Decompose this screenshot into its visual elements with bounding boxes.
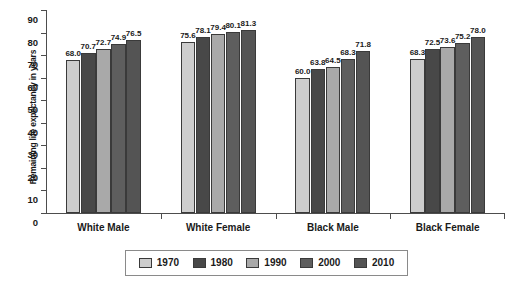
bar-white-male-2010 bbox=[126, 40, 141, 212]
y-tick-label: 0 bbox=[33, 218, 38, 228]
legend-label: 1970 bbox=[157, 258, 179, 268]
y-tick-mark bbox=[41, 190, 46, 191]
y-axis-line bbox=[46, 10, 47, 214]
x-group-tick bbox=[504, 213, 505, 219]
y-tick-mark bbox=[41, 33, 46, 34]
bar-white-male-2000 bbox=[111, 44, 126, 213]
y-tick-label: 20 bbox=[27, 173, 38, 183]
y-tick-mark bbox=[41, 78, 46, 79]
bar-black-male-2000 bbox=[341, 59, 356, 213]
legend-swatch-icon bbox=[193, 258, 206, 268]
y-tick-label: 50 bbox=[27, 105, 38, 115]
legend-item-2010[interactable]: 2010 bbox=[354, 258, 394, 268]
bar-white-male-1990 bbox=[96, 49, 111, 213]
legend-swatch-icon bbox=[300, 258, 313, 268]
x-axis-group-label: Black Female bbox=[416, 222, 480, 233]
legend-item-1970[interactable]: 1970 bbox=[139, 258, 179, 268]
x-axis-group-label: White Female bbox=[186, 222, 250, 233]
legend-swatch-icon bbox=[354, 258, 367, 268]
bar-white-female-2000 bbox=[226, 32, 241, 212]
y-tick-label: 90 bbox=[27, 15, 38, 25]
y-tick-mark bbox=[41, 213, 46, 214]
bar-white-female-1980 bbox=[196, 37, 211, 213]
legend-item-2000[interactable]: 2000 bbox=[300, 258, 340, 268]
bar-value-label: 78.0 bbox=[467, 27, 489, 35]
legend-label: 1990 bbox=[264, 258, 286, 268]
legend-item-1980[interactable]: 1980 bbox=[193, 258, 233, 268]
x-group-tick bbox=[390, 213, 391, 219]
bar-black-female-2010 bbox=[471, 37, 486, 213]
bar-black-male-1970 bbox=[295, 78, 310, 213]
legend-label: 2010 bbox=[372, 258, 394, 268]
legend-label: 1980 bbox=[211, 258, 233, 268]
source-note bbox=[4, 289, 524, 297]
bar-black-female-1970 bbox=[410, 59, 425, 213]
plot-area: 68.070.772.774.976.575.678.179.480.181.3… bbox=[46, 10, 505, 214]
bar-white-female-1990 bbox=[211, 34, 226, 213]
x-axis-group-label: White Male bbox=[77, 222, 129, 233]
x-group-tick bbox=[276, 213, 277, 219]
y-tick-label: 40 bbox=[27, 128, 38, 138]
legend-label: 2000 bbox=[318, 258, 340, 268]
bar-black-female-2000 bbox=[455, 43, 470, 212]
y-tick-label: 70 bbox=[27, 60, 38, 70]
y-tick-mark bbox=[41, 100, 46, 101]
legend-item-1990[interactable]: 1990 bbox=[246, 258, 286, 268]
x-axis-group-label: Black Male bbox=[307, 222, 359, 233]
bar-black-female-1990 bbox=[440, 47, 455, 213]
legend: 19701980199020002010 bbox=[125, 250, 408, 276]
bar-chart: Remaining life expectancy in years 01020… bbox=[0, 0, 528, 297]
legend-swatch-icon bbox=[139, 258, 152, 268]
bar-black-male-1980 bbox=[311, 69, 326, 213]
y-tick-mark bbox=[41, 10, 46, 11]
bar-black-male-2010 bbox=[356, 51, 371, 213]
y-tick-label: 60 bbox=[27, 83, 38, 93]
bar-white-male-1980 bbox=[81, 53, 96, 212]
y-tick-label: 80 bbox=[27, 38, 38, 48]
bar-black-male-1990 bbox=[326, 67, 341, 212]
y-tick-label: 10 bbox=[27, 195, 38, 205]
bar-black-female-1980 bbox=[425, 49, 440, 212]
y-tick-mark bbox=[41, 55, 46, 56]
y-axis-tick-labels: 0102030405060708090 bbox=[0, 10, 40, 214]
bar-white-female-1970 bbox=[181, 42, 196, 212]
y-tick-mark bbox=[41, 145, 46, 146]
bar-value-label: 76.5 bbox=[123, 30, 145, 38]
legend-swatch-icon bbox=[246, 258, 259, 268]
bar-value-label: 71.8 bbox=[352, 41, 374, 49]
y-tick-mark bbox=[41, 123, 46, 124]
x-group-tick bbox=[161, 213, 162, 219]
y-tick-label: 30 bbox=[27, 150, 38, 160]
bar-white-male-1970 bbox=[66, 60, 81, 213]
bar-white-female-2010 bbox=[241, 30, 256, 213]
y-tick-mark bbox=[41, 168, 46, 169]
bar-value-label: 81.3 bbox=[237, 20, 259, 28]
